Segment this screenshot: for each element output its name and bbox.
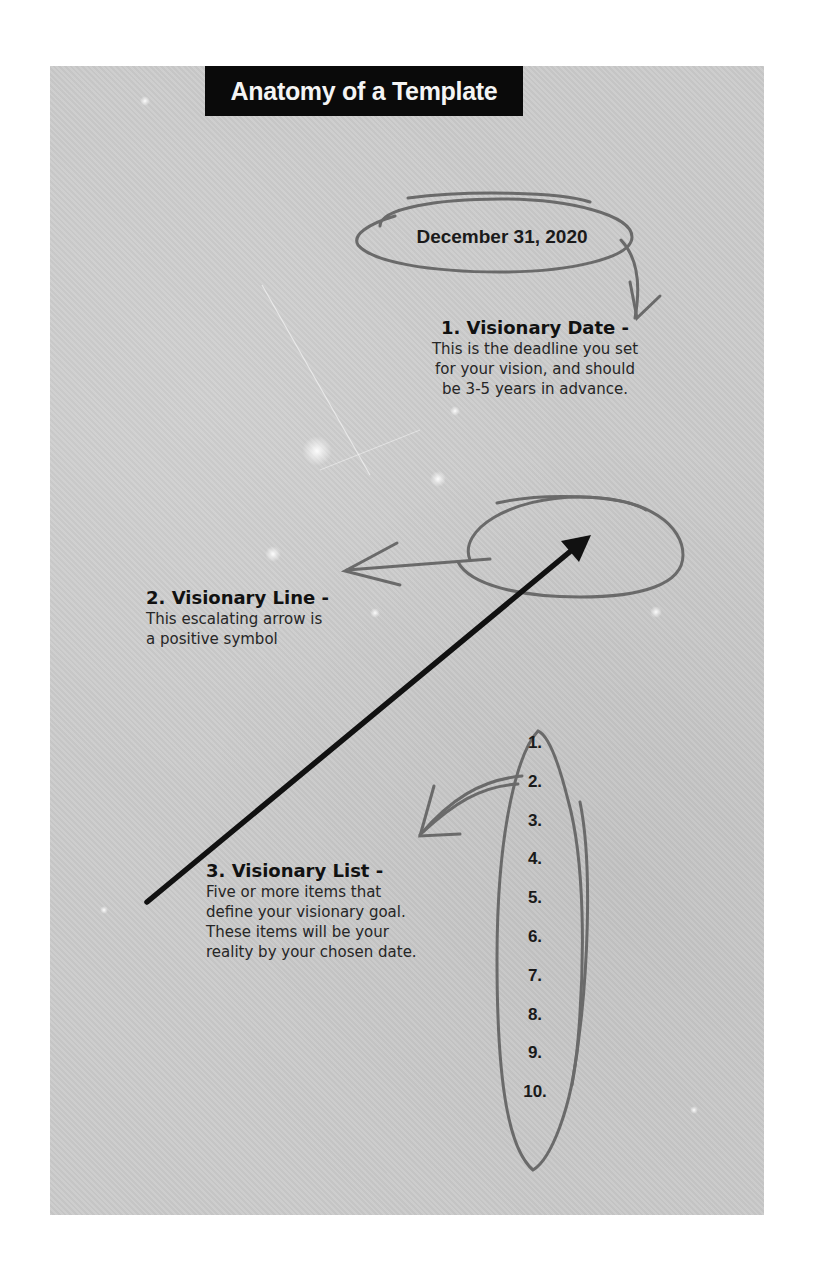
list-number: 1. xyxy=(510,724,560,763)
visionary-list-body-line: reality by your chosen date. xyxy=(206,942,506,962)
list-number: 2. xyxy=(510,763,560,802)
list-number: 6. xyxy=(510,918,560,957)
sparkle-icon xyxy=(140,96,150,106)
visionary-line-annotation: 2. Visionary Line - This escalating arro… xyxy=(146,587,406,649)
sparkle-icon xyxy=(430,471,446,487)
visionary-date-annotation: 1. Visionary Date - This is the deadline… xyxy=(395,317,675,399)
list-number: 3. xyxy=(510,802,560,841)
visionary-list-body-line: These items will be your xyxy=(206,922,506,942)
list-number: 8. xyxy=(510,996,560,1035)
sparkle-icon xyxy=(690,1106,698,1114)
visionary-date-body-line: for your vision, and should xyxy=(395,359,675,379)
sparkle-icon xyxy=(100,906,108,914)
sparkle-icon xyxy=(302,436,332,466)
list-number: 4. xyxy=(510,840,560,879)
visionary-list-body-line: define your visionary goal. xyxy=(206,902,506,922)
list-number: 10. xyxy=(510,1073,560,1112)
sparkle-icon xyxy=(265,546,281,562)
visionary-list-body-line: Five or more items that xyxy=(206,882,506,902)
visionary-list-heading: 3. Visionary List - xyxy=(206,860,506,882)
visionary-list-annotation: 3. Visionary List - Five or more items t… xyxy=(206,860,506,962)
sparkle-icon xyxy=(450,406,460,416)
visionary-line-body-line: This escalating arrow is xyxy=(146,609,406,629)
visionary-date-body-line: be 3-5 years in advance. xyxy=(395,379,675,399)
visionary-date-value: December 31, 2020 xyxy=(392,226,612,248)
visionary-date-body-line: This is the deadline you set xyxy=(395,339,675,359)
visionary-line-body-line: a positive symbol xyxy=(146,629,406,649)
list-number: 5. xyxy=(510,879,560,918)
visionary-date-heading: 1. Visionary Date - xyxy=(395,317,675,339)
list-number: 7. xyxy=(510,957,560,996)
sparkle-icon xyxy=(650,606,662,618)
list-number: 9. xyxy=(510,1034,560,1073)
visionary-line-heading: 2. Visionary Line - xyxy=(146,587,406,609)
page-title: Anatomy of a Template xyxy=(205,66,523,116)
visionary-list-numbers: 1. 2. 3. 4. 5. 6. 7. 8. 9. 10. xyxy=(510,724,560,1112)
